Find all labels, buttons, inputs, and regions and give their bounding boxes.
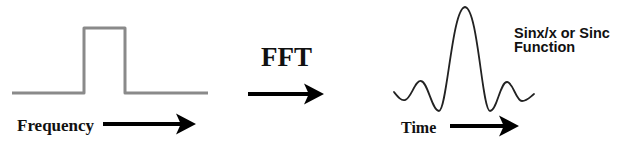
sinc-waveform [394,7,534,111]
time-label: Time [401,119,436,136]
fft-diagram: Frequency FFT Time Sinx/x or Sinc Functi… [0,0,642,148]
fft-label: FFT [261,42,312,72]
sinc-caption-line2: Function [514,39,575,55]
rectangular-pulse [12,28,208,93]
frequency-label: Frequency [17,116,95,135]
